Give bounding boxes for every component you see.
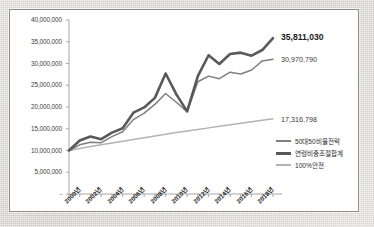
legend-item: 50대50비율전략	[276, 136, 340, 146]
series-end-label: 17,316,798	[281, 115, 317, 124]
y-tick-label: 25,000,000	[14, 81, 62, 88]
legend-item: 100%안전	[276, 160, 324, 170]
series-line	[69, 119, 273, 151]
y-tick-label: 15,000,000	[14, 125, 62, 132]
series-end-label: 35,811,030	[281, 32, 324, 42]
y-tick-label: 35,000,000	[14, 38, 62, 45]
series-line	[69, 59, 273, 150]
y-tick-label: 20,000,000	[14, 103, 62, 110]
y-tick-label: -	[14, 190, 62, 197]
y-tick-label: 10,000,000	[14, 147, 62, 154]
legend-label: 연령비중조절합계	[295, 148, 343, 158]
legend-label: 100%안전	[295, 160, 324, 170]
y-tick-label: 30,000,000	[14, 60, 62, 67]
legend-swatch	[276, 152, 291, 155]
chart-panel: 40,000,00035,000,00030,000,00025,000,000…	[9, 9, 359, 212]
legend-swatch	[276, 164, 291, 166]
y-tick-label: 40,000,000	[14, 16, 62, 23]
series-end-label: 30,970,790	[281, 55, 317, 64]
legend-item: 연령비중조절합계	[276, 148, 343, 158]
legend-swatch	[276, 140, 291, 142]
legend-label: 50대50비율전략	[295, 136, 340, 146]
y-tick-label: 5,000,000	[14, 168, 62, 175]
